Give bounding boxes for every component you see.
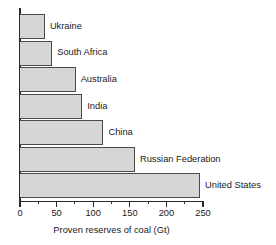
- bar-label-india: India: [87, 102, 107, 111]
- bar-label-china: China: [108, 128, 132, 137]
- bar-label-russian-federation: Russian Federation: [140, 155, 221, 164]
- x-tick-major-100: [93, 201, 94, 207]
- bar-south-africa: [20, 41, 52, 66]
- bar-label-ukraine: Ukraine: [50, 22, 82, 31]
- bar-label-south-africa: South Africa: [57, 48, 107, 57]
- x-tick-label-50: 50: [51, 209, 61, 218]
- plot-area: UkraineSouth AfricaAustraliaIndiaChinaRu…: [0, 0, 276, 205]
- x-tick-label-250: 250: [195, 209, 211, 218]
- bar-label-united-states: United States: [205, 181, 261, 190]
- x-tick-major-200: [166, 201, 167, 207]
- x-tick-minor-175: [148, 201, 149, 205]
- x-tick-label-200: 200: [159, 209, 175, 218]
- bar-australia: [20, 67, 76, 92]
- bar-russian-federation: [20, 147, 135, 172]
- x-tick-major-50: [56, 201, 57, 207]
- x-tick-minor-125: [111, 201, 112, 205]
- x-tick-minor-75: [74, 201, 75, 205]
- x-tick-label-100: 100: [85, 209, 101, 218]
- x-tick-label-0: 0: [17, 209, 22, 218]
- bar-china: [20, 120, 103, 145]
- x-tick-minor-225: [184, 201, 185, 205]
- bar-united-states: [20, 173, 200, 198]
- bar-ukraine: [20, 14, 45, 39]
- x-tick-major-0: [19, 201, 20, 207]
- bar-india: [20, 94, 82, 119]
- x-tick-label-150: 150: [122, 209, 138, 218]
- x-tick-major-150: [129, 201, 130, 207]
- x-tick-major-250: [202, 201, 203, 207]
- bar-label-australia: Australia: [81, 75, 117, 84]
- coal-reserves-bar-chart: UkraineSouth AfricaAustraliaIndiaChinaRu…: [0, 0, 276, 245]
- x-axis-title: Proven reserves of coal (Gt): [19, 226, 204, 235]
- x-tick-minor-25: [38, 201, 39, 205]
